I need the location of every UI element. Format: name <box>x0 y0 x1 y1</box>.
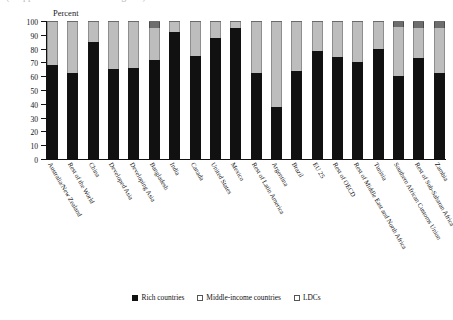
y-tick-label: 50 <box>30 87 38 96</box>
legend-swatch-icon <box>294 295 300 301</box>
bar-top-edge <box>251 21 262 22</box>
bar-rest-of-oecd[interactable] <box>332 21 343 159</box>
y-tick: 70 <box>41 62 46 63</box>
y-tick: 0 <box>41 159 46 160</box>
category-label: China <box>88 161 102 178</box>
y-tick-label: 70 <box>30 59 38 68</box>
bar-rest-of-sub-saharan-africa[interactable] <box>413 21 424 159</box>
bar-zambia[interactable] <box>434 21 445 159</box>
y-tick: 90 <box>41 35 46 36</box>
bar-top-edge <box>393 21 404 22</box>
bar-rest-of-the-world[interactable] <box>67 21 78 159</box>
bar-rest-of-latin-america[interactable] <box>251 21 262 159</box>
bar-top-edge <box>88 21 99 22</box>
segment-middle-income <box>251 21 262 73</box>
segment-middle-income <box>128 21 139 68</box>
y-tick-mark <box>41 104 46 105</box>
y-tick: 80 <box>41 49 46 50</box>
y-tick: 40 <box>41 104 46 105</box>
segment-middle-income <box>108 21 119 69</box>
y-tick: 30 <box>41 118 46 119</box>
segment-rich <box>393 76 404 159</box>
bar-top-edge <box>67 21 78 22</box>
y-tick-label: 60 <box>30 73 38 82</box>
segment-rich <box>149 60 160 159</box>
bar-top-edge <box>352 21 363 22</box>
segment-middle-income <box>352 21 363 62</box>
y-tick-mark <box>41 35 46 36</box>
y-tick-label: 20 <box>30 128 38 137</box>
segment-rich <box>251 73 262 159</box>
x-axis-line <box>46 159 446 160</box>
y-tick-label: 100 <box>27 18 38 27</box>
y-tick: 60 <box>41 76 46 77</box>
bar-india[interactable] <box>169 21 180 159</box>
segment-rich <box>47 65 58 159</box>
y-tick-label: 80 <box>30 45 38 54</box>
bar-argentina[interactable] <box>271 21 282 159</box>
bar-canada[interactable] <box>190 21 201 159</box>
segment-rich <box>373 49 384 159</box>
y-tick-label: 90 <box>30 31 38 40</box>
y-tick-mark <box>41 118 46 119</box>
category-label: Rest of Sub-Saharan Africa <box>414 161 453 227</box>
bar-mexico[interactable] <box>230 21 241 159</box>
bar-top-edge <box>190 21 201 22</box>
bar-australia-new-zealand[interactable] <box>47 21 58 159</box>
segment-rich <box>88 42 99 159</box>
segment-rich <box>413 58 424 159</box>
category-label: EU 25 <box>312 161 327 179</box>
y-tick-mark <box>41 76 46 77</box>
y-tick-mark <box>41 62 46 63</box>
category-label: Mexico <box>230 161 246 182</box>
bar-top-edge <box>169 21 180 22</box>
legend-label: LDCs <box>303 293 321 302</box>
segment-middle-income <box>291 21 302 71</box>
bar-brazil[interactable] <box>291 21 302 159</box>
bar-developed-asia[interactable] <box>108 21 119 159</box>
segment-middle-income <box>88 21 99 42</box>
chart-page: (cropped header text — illegible) Percen… <box>0 0 453 320</box>
segment-middle-income <box>47 21 58 65</box>
segment-rich <box>108 69 119 159</box>
legend-item-middle[interactable]: Middle-income countries <box>197 293 281 302</box>
legend-item-ldcs[interactable]: LDCs <box>294 293 321 302</box>
segment-ldcs <box>149 21 160 28</box>
segment-middle-income <box>332 21 343 57</box>
y-tick-mark <box>41 131 46 132</box>
segment-rich <box>128 68 139 159</box>
cropped-title-text: (cropped header text — illegible) <box>6 0 146 2</box>
segment-middle-income <box>169 21 180 32</box>
segment-middle-income <box>413 28 424 58</box>
segment-rich <box>190 56 201 160</box>
bar-eu-25[interactable] <box>312 21 323 159</box>
bar-tunisia[interactable] <box>373 21 384 159</box>
bar-bangladesh[interactable] <box>149 21 160 159</box>
legend-item-rich[interactable]: Rich countries <box>132 293 184 302</box>
bar-china[interactable] <box>88 21 99 159</box>
y-axis-unit-label: Percent <box>53 8 79 18</box>
y-tick-label: 40 <box>30 100 38 109</box>
bar-top-edge <box>271 21 282 22</box>
bar-developing-asia[interactable] <box>128 21 139 159</box>
bar-top-edge <box>434 21 445 22</box>
bar-united-states[interactable] <box>210 21 221 159</box>
y-tick: 20 <box>41 131 46 132</box>
legend-label: Middle-income countries <box>206 293 281 302</box>
y-tick-mark <box>41 49 46 50</box>
bar-top-edge <box>149 21 160 22</box>
legend-label: Rich countries <box>141 293 184 302</box>
bar-southern-african-customs-union[interactable] <box>393 21 404 159</box>
segment-middle-income <box>230 21 241 28</box>
segment-middle-income <box>393 27 404 77</box>
bar-top-edge <box>210 21 221 22</box>
segment-rich <box>312 51 323 159</box>
category-label: Argentina <box>271 161 290 187</box>
bar-top-edge <box>108 21 119 22</box>
y-tick-label: 10 <box>30 142 38 151</box>
y-tick-label: 0 <box>34 156 38 165</box>
y-tick-mark <box>41 145 46 146</box>
category-label: India <box>169 161 182 176</box>
bar-rest-of-middle-east-and-north-africa[interactable] <box>352 21 363 159</box>
bar-top-edge <box>47 21 58 22</box>
